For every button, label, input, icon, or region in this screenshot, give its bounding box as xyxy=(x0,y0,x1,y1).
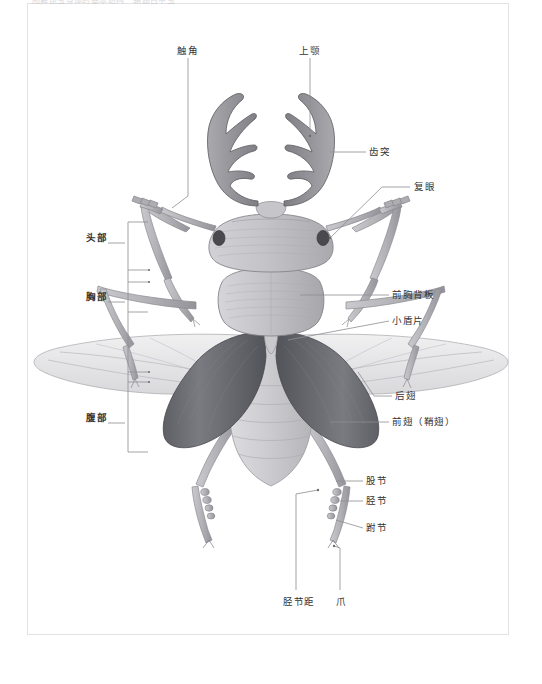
label-scutellum: 小盾片 xyxy=(392,315,424,326)
diagram-frame xyxy=(27,3,509,635)
page-caption: 图解昆虫身体的基本结构 · 鞘翅目甲虫 xyxy=(32,0,332,6)
label-thorax: 胸部 xyxy=(86,291,107,302)
label-tibia: 胫节 xyxy=(366,495,387,506)
label-tarsus: 跗节 xyxy=(366,522,387,533)
label-compound-eye: 复眼 xyxy=(414,181,435,192)
label-tibial-spur: 胫节距 xyxy=(283,596,315,607)
label-hindwing: 后翅 xyxy=(395,390,416,401)
label-mandible: 上颚 xyxy=(299,45,320,56)
label-pronotum: 前胸背板 xyxy=(392,289,434,300)
label-head: 头部 xyxy=(86,232,107,243)
diagram-page: 图解昆虫身体的基本结构 · 鞘翅目甲虫 xyxy=(0,0,542,684)
label-tooth-process: 齿突 xyxy=(369,146,390,157)
label-femur: 股节 xyxy=(366,475,387,486)
label-forewing: 前翅（鞘翅） xyxy=(392,416,455,427)
label-claw: 爪 xyxy=(336,596,347,607)
label-antenna: 触角 xyxy=(177,45,198,56)
label-abdomen: 腹部 xyxy=(86,412,107,423)
